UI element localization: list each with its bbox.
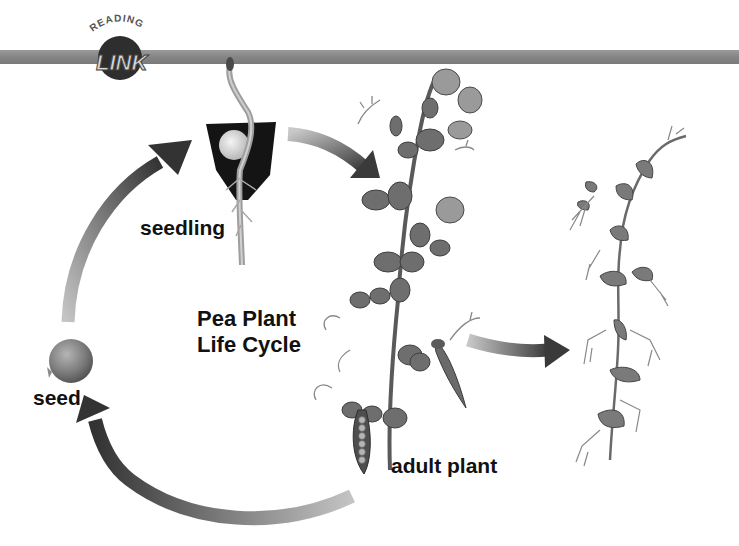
reading-link-logo: READING LINK [87,12,150,80]
withered-plant-illustration [570,126,686,466]
seed-illustration [47,339,93,383]
arrow-adult-to-seed [76,395,352,518]
diagram-title-line2: Life Cycle [197,332,301,358]
arrow-seedling-to-adult [288,134,380,178]
diagram-title: Pea Plant Life Cycle [197,306,301,358]
diagram-title-line1: Pea Plant [197,306,301,332]
stage-label-seed: seed [33,386,81,410]
arrow-adult-to-dead-plant [468,335,570,368]
adult-plant-illustration [314,69,482,474]
pea-plant-life-cycle-diagram: READING LINK [0,0,739,546]
stage-label-seedling: seedling [140,216,225,240]
svg-text:LINK: LINK [96,50,149,75]
svg-text:READING: READING [87,12,146,33]
diagram-graphics: READING LINK [0,0,739,546]
stage-label-adult-plant: adult plant [391,454,497,478]
